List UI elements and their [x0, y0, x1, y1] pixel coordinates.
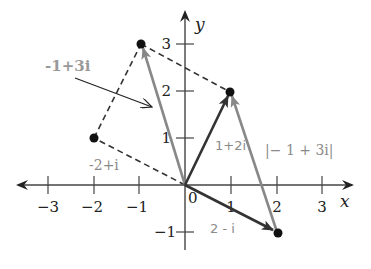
point-2-minus-i [274, 229, 283, 238]
y-tick-labels: 3 2 1 −1 [154, 35, 176, 241]
callout-arrow [75, 78, 152, 107]
point-minus2-plus-i [90, 134, 99, 143]
x-tick-label: 3 [317, 198, 327, 216]
vector-minus1-plus3i [143, 48, 185, 185]
y-tick-label: −1 [154, 223, 176, 241]
label-minus2-plus-i: -2+i [89, 157, 119, 173]
y-tick-label: 3 [161, 35, 171, 53]
x-axis-label: x [340, 191, 350, 211]
label-1-plus-2i: 1+2i [215, 138, 246, 153]
point-minus1-plus3i [137, 40, 146, 49]
y-axis-label: y [194, 14, 205, 34]
label-magnitude: |− 1 + 3i| [265, 142, 334, 159]
label-minus1-plus3i: -1+3i [45, 57, 91, 75]
x-tick-label: 2 [272, 198, 282, 216]
x-tick-label: −3 [37, 198, 59, 216]
complex-plane-diagram: −3 −2 −1 1 2 3 3 2 1 −1 x y 0 -1+3i 1+2i… [0, 0, 371, 269]
x-tick-labels: −3 −2 −1 1 2 3 [37, 198, 327, 216]
dashed-segment [94, 44, 141, 138]
label-2-minus-i: 2 - i [210, 221, 235, 236]
x-tick-label: −2 [81, 198, 103, 216]
point-1-plus-2i [226, 88, 235, 97]
x-tick-label: −1 [126, 198, 148, 216]
y-tick-label: 2 [161, 82, 171, 100]
